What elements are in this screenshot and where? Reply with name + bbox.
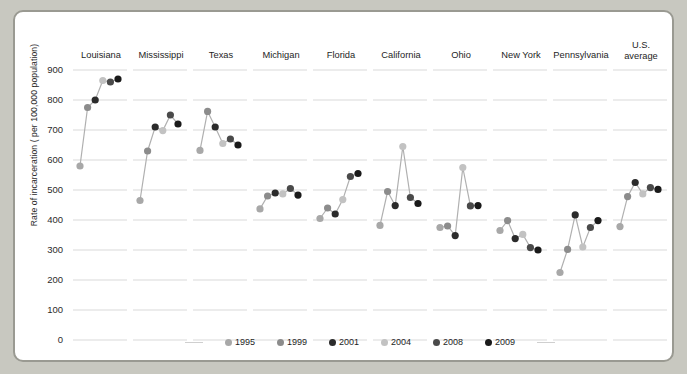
data-point[interactable] — [616, 223, 623, 230]
legend-item-1999[interactable]: 1999 — [277, 337, 307, 347]
data-point[interactable] — [324, 204, 331, 211]
legend-rule-right — [537, 342, 555, 343]
data-point[interactable] — [594, 217, 601, 224]
series-line — [200, 111, 238, 150]
legend-label: 2004 — [391, 337, 411, 347]
data-point[interactable] — [527, 244, 534, 251]
data-point[interactable] — [167, 111, 174, 118]
data-point[interactable] — [159, 127, 166, 134]
data-point[interactable] — [347, 173, 354, 180]
legend-label: 2001 — [339, 337, 359, 347]
data-point[interactable] — [272, 189, 279, 196]
data-point[interactable] — [196, 147, 203, 154]
legend-dot-icon — [225, 339, 232, 346]
data-point[interactable] — [264, 192, 271, 199]
data-point[interactable] — [504, 217, 511, 224]
data-point[interactable] — [519, 231, 526, 238]
series-line — [80, 79, 118, 166]
legend-item-2008[interactable]: 2008 — [433, 337, 463, 347]
series-line — [320, 174, 358, 219]
legend-label: 1999 — [287, 337, 307, 347]
data-point[interactable] — [632, 179, 639, 186]
data-point[interactable] — [332, 210, 339, 217]
legend-label: 2008 — [443, 337, 463, 347]
data-point[interactable] — [212, 123, 219, 130]
data-point[interactable] — [407, 194, 414, 201]
data-point[interactable] — [376, 222, 383, 229]
data-point[interactable] — [639, 190, 646, 197]
data-point[interactable] — [114, 75, 121, 82]
data-point[interactable] — [136, 197, 143, 204]
chart-area: Rate of incarceration ( per 100,000 popu… — [15, 12, 672, 360]
data-point[interactable] — [234, 141, 241, 148]
data-point[interactable] — [647, 184, 654, 191]
data-point[interactable] — [534, 246, 541, 253]
data-point[interactable] — [512, 235, 519, 242]
data-point[interactable] — [467, 202, 474, 209]
legend-label: 1995 — [235, 337, 255, 347]
data-point[interactable] — [144, 147, 151, 154]
data-point[interactable] — [587, 224, 594, 231]
data-point[interactable] — [624, 193, 631, 200]
legend-item-list: 199519992001200420082009 — [225, 337, 515, 347]
chart-legend: 199519992001200420082009 — [185, 334, 555, 350]
scatter-plot — [15, 12, 672, 360]
data-point[interactable] — [474, 202, 481, 209]
data-point[interactable] — [174, 120, 181, 127]
data-point[interactable] — [339, 196, 346, 203]
data-point[interactable] — [287, 185, 294, 192]
legend-item-2001[interactable]: 2001 — [329, 337, 359, 347]
data-point[interactable] — [414, 200, 421, 207]
data-point[interactable] — [354, 170, 361, 177]
data-point[interactable] — [444, 222, 451, 229]
series-line — [380, 147, 418, 226]
data-point[interactable] — [392, 202, 399, 209]
data-point[interactable] — [399, 143, 406, 150]
data-point[interactable] — [384, 188, 391, 195]
data-point[interactable] — [227, 135, 234, 142]
legend-rule-left — [185, 342, 203, 343]
data-point[interactable] — [452, 232, 459, 239]
data-point[interactable] — [256, 205, 263, 212]
data-point[interactable] — [294, 192, 301, 199]
data-point[interactable] — [572, 211, 579, 218]
data-point[interactable] — [76, 162, 83, 169]
data-point[interactable] — [436, 224, 443, 231]
legend-dot-icon — [329, 339, 336, 346]
data-point[interactable] — [579, 243, 586, 250]
legend-dot-icon — [381, 339, 388, 346]
data-point[interactable] — [279, 190, 286, 197]
legend-dot-icon — [485, 339, 492, 346]
legend-item-1995[interactable]: 1995 — [225, 337, 255, 347]
data-point[interactable] — [316, 215, 323, 222]
data-point[interactable] — [152, 123, 159, 130]
legend-label: 2009 — [495, 337, 515, 347]
data-point[interactable] — [564, 246, 571, 253]
data-point[interactable] — [219, 140, 226, 147]
series-line — [560, 215, 598, 273]
data-point[interactable] — [204, 108, 211, 115]
data-point[interactable] — [654, 186, 661, 193]
data-point[interactable] — [84, 104, 91, 111]
legend-dot-icon — [433, 339, 440, 346]
data-point[interactable] — [556, 269, 563, 276]
legend-item-2009[interactable]: 2009 — [485, 337, 515, 347]
chart-frame: Rate of incarceration ( per 100,000 popu… — [13, 10, 674, 362]
data-point[interactable] — [107, 78, 114, 85]
legend-item-2004[interactable]: 2004 — [381, 337, 411, 347]
data-point[interactable] — [99, 77, 106, 84]
data-point[interactable] — [92, 96, 99, 103]
data-point[interactable] — [496, 227, 503, 234]
series-line — [140, 115, 178, 201]
data-point[interactable] — [459, 164, 466, 171]
legend-dot-icon — [277, 339, 284, 346]
